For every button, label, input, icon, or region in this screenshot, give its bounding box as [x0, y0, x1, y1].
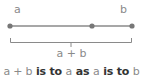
ratio-caption: a + b is to a as a is to b: [0, 66, 143, 77]
caption-connector: is to: [100, 65, 133, 78]
caption-connector: as: [72, 65, 93, 78]
point-start: [7, 23, 12, 28]
label-sum: a + b: [0, 48, 143, 59]
sum-bracket: [11, 38, 132, 43]
label-b: b: [120, 4, 127, 15]
caption-term: a + b: [3, 65, 32, 78]
label-a: a: [14, 4, 21, 15]
point-end: [129, 23, 134, 28]
caption-term: b: [133, 65, 140, 78]
caption-connector: is to: [32, 65, 65, 78]
point-division: [89, 23, 94, 28]
